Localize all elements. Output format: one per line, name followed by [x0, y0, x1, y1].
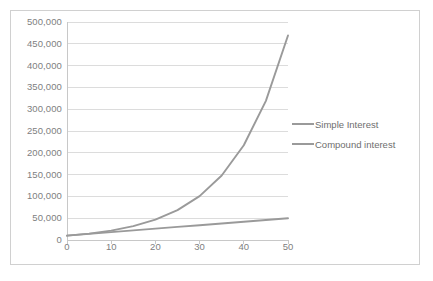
- y-tick-label: 300,000: [27, 104, 62, 114]
- x-axis-tick-labels: 01020304050: [0, 242, 433, 256]
- y-tick-label: 350,000: [27, 82, 62, 92]
- x-tick-label: 10: [99, 242, 123, 252]
- y-tick-label: 50,000: [32, 213, 62, 223]
- x-tick-label: 40: [232, 242, 256, 252]
- legend-line-swatch-simple-interest: [292, 123, 314, 125]
- x-tick-label: 50: [276, 242, 300, 252]
- x-tick-label: 20: [143, 242, 167, 252]
- y-tick-label: 100,000: [27, 191, 62, 201]
- gridlines-group: [67, 22, 288, 240]
- y-tick-label: 150,000: [27, 170, 62, 180]
- y-tick-label: 400,000: [27, 61, 62, 71]
- y-tick-label: 200,000: [27, 148, 62, 158]
- chart-legend: Simple Interest Compound interest: [292, 114, 422, 154]
- x-tick-label: 30: [188, 242, 212, 252]
- legend-label-compound-interest: Compound interest: [315, 139, 395, 150]
- x-tick-label: 0: [55, 242, 79, 252]
- legend-item-simple-interest[interactable]: Simple Interest: [292, 114, 422, 134]
- y-tick-label: 450,000: [27, 39, 62, 49]
- y-tick-label: 500,000: [27, 17, 62, 27]
- y-axis-tick-labels: 050,000100,000150,000200,000250,000300,0…: [14, 0, 62, 281]
- legend-label-simple-interest: Simple Interest: [315, 119, 378, 130]
- legend-item-compound-interest[interactable]: Compound interest: [292, 134, 422, 154]
- legend-line-swatch-compound-interest: [292, 143, 314, 145]
- y-tick-label: 250,000: [27, 126, 62, 136]
